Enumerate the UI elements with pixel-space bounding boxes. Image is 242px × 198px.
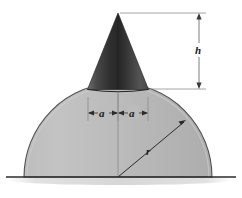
height-label: h bbox=[195, 44, 201, 56]
height-arrowhead-bottom-icon bbox=[196, 83, 201, 90]
radius-label: r bbox=[146, 145, 151, 157]
cone-on-dome-diagram: r h a a bbox=[0, 0, 242, 198]
a-left-label: a bbox=[99, 107, 105, 119]
height-arrowhead-top-icon bbox=[196, 13, 201, 20]
figure-container: r h a a bbox=[0, 0, 242, 198]
a-right-label: a bbox=[129, 107, 135, 119]
